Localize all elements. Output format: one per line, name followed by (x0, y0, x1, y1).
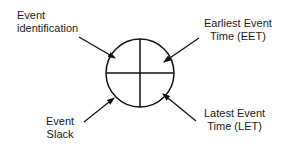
label-line: Slack (46, 128, 74, 141)
arrow-event-slack (84, 98, 114, 122)
label-event-slack: Event Slack (46, 115, 74, 141)
label-line: Latest Event (204, 107, 265, 120)
label-line: Event (17, 9, 78, 22)
arrow-latest-event-time (163, 94, 196, 121)
label-earliest-event-time: Earliest Event Time (EET) (204, 17, 272, 43)
label-line: Time (EET) (204, 30, 272, 43)
label-latest-event-time: Latest Event Time (LET) (204, 107, 265, 133)
label-line: Event (46, 115, 74, 128)
arrow-event-identification (79, 37, 115, 58)
label-line: Earliest Event (204, 17, 272, 30)
label-line: Time (LET) (204, 120, 265, 133)
label-line: identification (17, 22, 78, 35)
event-node-circle (106, 39, 174, 107)
label-event-identification: Event identification (17, 9, 78, 35)
arrow-earliest-event-time (164, 38, 199, 62)
